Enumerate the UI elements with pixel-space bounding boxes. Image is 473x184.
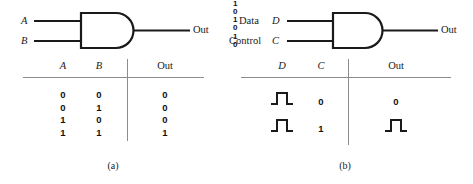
table-row: 0 [393, 97, 398, 107]
table-row: 1 [96, 103, 101, 113]
table-header-b-col-d: D [278, 61, 286, 72]
waveform-out-row2 [385, 120, 407, 131]
gate-input-prefix-control: Control [229, 36, 261, 47]
table-header-a-col-a: A [60, 61, 66, 72]
table-row: 1 [162, 128, 167, 138]
table-row: 0 [60, 90, 65, 100]
table-row: 0 [318, 97, 323, 107]
gate-output-label-a: Out [193, 25, 209, 36]
logic-gate-figure: A B Out A B Out 0 0 0 0 1 0 1 0 0 1 1 1 … [0, 0, 473, 184]
table-header-a-col-b: B [96, 61, 102, 72]
table-row: 0 [162, 103, 167, 113]
gate-input-prefix-data: Data [239, 16, 259, 27]
gate-output-label-b: Out [441, 25, 457, 36]
panel-a: A B Out A B Out 0 0 0 0 1 0 1 0 0 1 1 1 … [0, 0, 233, 184]
gate-input-label-b: B [21, 36, 27, 47]
gate-input-label-d: D [272, 16, 280, 27]
table-row: 1 [60, 115, 65, 125]
table-row: 1 [96, 128, 101, 138]
waveform-d-row2 [271, 120, 293, 131]
panel-b-caption: (b) [339, 161, 351, 171]
table-row: 1 [318, 124, 323, 134]
panel-b: Data D Control C Out D C Out 1 0 0 0 1 0… [233, 0, 473, 184]
panel-a-caption: (a) [107, 161, 118, 171]
gate-input-label-a: A [21, 16, 27, 27]
and-gate-body-a [81, 13, 134, 48]
table-header-a-col-out: Out [157, 61, 173, 72]
table-header-b-col-out: Out [388, 61, 404, 72]
table-header-b-col-c: C [317, 61, 324, 72]
and-gate-body-b [333, 13, 383, 48]
table-row: 0 [162, 90, 167, 100]
waveform-d-row1 [271, 93, 293, 104]
table-row: 0 [96, 115, 101, 125]
table-row: 0 [162, 115, 167, 125]
gate-input-label-c: C [272, 36, 279, 47]
table-row: 0 [96, 90, 101, 100]
panel-b-graphics [233, 0, 473, 184]
table-row: 1 [60, 128, 65, 138]
table-row: 0 [60, 103, 65, 113]
